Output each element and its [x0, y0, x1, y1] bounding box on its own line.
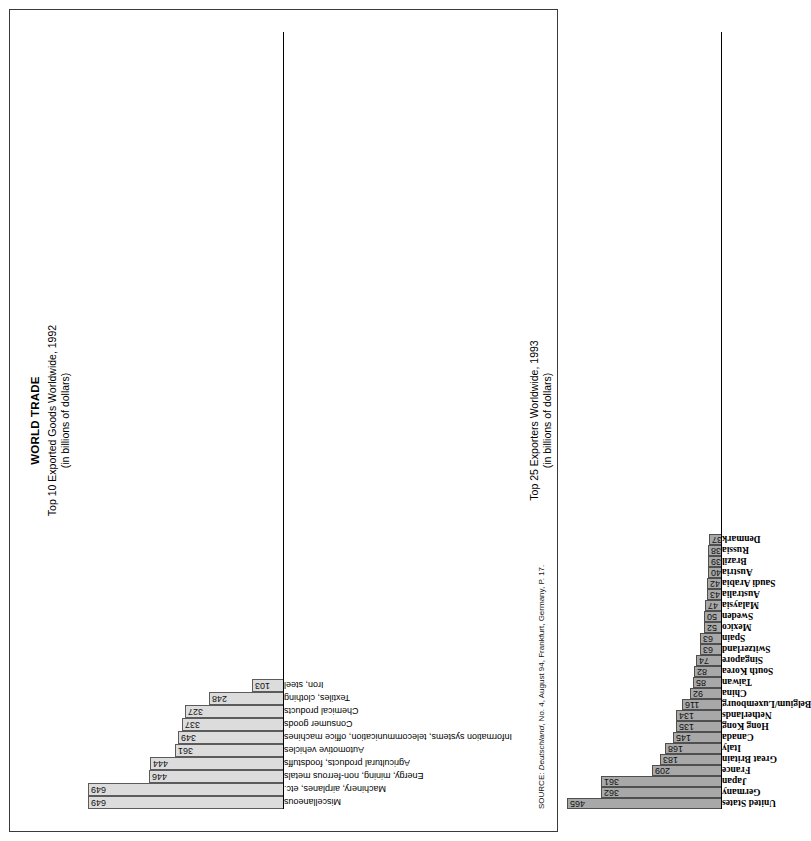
category-label-text: Belgium/Luxembourg: [722, 700, 811, 710]
bar: 52: [704, 622, 721, 633]
bar: 168: [665, 743, 721, 754]
category-label: Energy, mining, non-ferrous metals: [284, 770, 423, 783]
bar: 82: [694, 666, 721, 677]
chart1-plot-area: 649649446444361349337327248103: [74, 32, 284, 809]
bar: 183: [660, 754, 721, 765]
category-label-text: Iron, steel: [284, 681, 324, 691]
category-label-text: Spain: [722, 634, 745, 644]
category-label-text: Brazil: [722, 557, 747, 567]
source-publication: Deutschland: [537, 726, 546, 770]
bar-value-label: 50: [707, 612, 717, 621]
bar-value-label: 52: [707, 623, 717, 632]
category-label-text: Automotive vehicles: [284, 746, 364, 756]
category-label-text: Consumer goods: [284, 720, 353, 730]
bar: 465: [567, 798, 721, 809]
bar-value-label: 337: [185, 720, 200, 729]
category-label-text: Miscellaneous: [284, 798, 341, 808]
bar-column: 349: [178, 731, 283, 744]
bar-value-label: 361: [178, 746, 193, 755]
bar: 361: [601, 776, 721, 787]
bar-value-label: 209: [655, 766, 670, 775]
bar-column: 63: [700, 633, 721, 644]
bar-value-label: 649: [91, 798, 106, 807]
category-label-text: Denmark: [722, 535, 761, 545]
bar-value-label: 183: [663, 755, 678, 764]
bar-value-label: 38: [711, 546, 721, 555]
category-label-text: Canada: [722, 733, 754, 743]
category-label-text: Italy: [722, 744, 741, 754]
category-label: Canada: [722, 732, 754, 743]
category-label-text: Information systems, telecommunication, …: [284, 733, 512, 743]
category-label: United States: [722, 798, 776, 809]
bar-value-label: 362: [604, 788, 619, 797]
category-label: Machinery, airplanes, etc.: [284, 783, 386, 796]
bar-column: 116: [682, 699, 721, 710]
bar-value-label: 85: [696, 678, 706, 687]
chart1-title-line: Top 10 Exported Goods Worldwide, 1992: [46, 325, 58, 516]
bar-value-label: 145: [676, 733, 691, 742]
bar: 63: [700, 644, 721, 655]
category-label: Taiwan: [722, 677, 752, 688]
category-label: Netherlands: [722, 710, 772, 721]
category-label-text: Great Britain: [722, 755, 777, 765]
bar-value-label: 42: [710, 579, 720, 588]
bar: 446: [149, 770, 283, 783]
category-label: Hong Kong: [722, 721, 769, 732]
category-label-text: Machinery, airplanes, etc.: [284, 785, 386, 795]
bar-column: 446: [149, 770, 283, 783]
category-label: Mexico: [722, 622, 752, 633]
bar: 63: [700, 633, 721, 644]
category-label: Textiles, clothing: [284, 692, 350, 705]
category-label-text: Australia: [722, 590, 760, 600]
category-label: Consumer goods: [284, 718, 353, 731]
category-label: Australia: [722, 589, 760, 600]
chart1-units-line: (in billions of dollars): [59, 32, 72, 809]
bar-value-label: 248: [212, 694, 227, 703]
bar: 43: [707, 589, 721, 600]
bar: 103: [252, 679, 283, 692]
bar-value-label: 349: [181, 733, 196, 742]
category-label: Belgium/Luxembourg: [722, 699, 811, 710]
category-label: Automotive vehicles: [284, 744, 364, 757]
category-label-text: Agricultural products, foodstuffs: [284, 759, 410, 769]
bar: 39: [708, 556, 721, 567]
category-label: Saudi Arabia: [722, 578, 776, 589]
bar: 50: [704, 611, 721, 622]
bar: 327: [185, 705, 283, 718]
category-label: Switzerland: [722, 644, 771, 655]
bar-column: 465: [567, 798, 721, 809]
bar-column: 92: [690, 688, 721, 699]
category-label-text: Hong Kong: [722, 722, 769, 732]
chart2-plot-area: 4653623612091831681451351341169285827463…: [556, 32, 722, 809]
bar-value-label: 103: [255, 681, 270, 690]
bar-value-label: 40: [711, 568, 721, 577]
category-label: Singapore: [722, 655, 763, 666]
category-label: Chemical products: [284, 705, 359, 718]
category-label: France: [722, 765, 751, 776]
category-label: Denmark: [722, 534, 761, 545]
bar-column: 74: [696, 655, 721, 666]
bar-column: 43: [707, 589, 721, 600]
bar-value-label: 134: [679, 711, 694, 720]
bar-column: 82: [694, 666, 721, 677]
bar-column: 248: [209, 692, 283, 705]
bar-value-label: 92: [693, 689, 703, 698]
category-label-text: Taiwan: [722, 678, 752, 688]
bar-value-label: 82: [697, 667, 707, 676]
category-label-text: Germany: [722, 788, 761, 798]
category-label-text: Japan: [722, 777, 747, 787]
category-label: Malaysia: [722, 600, 759, 611]
bar: 135: [676, 721, 721, 732]
category-label: South Korea: [722, 666, 773, 677]
category-label: Japan: [722, 776, 747, 787]
chart-top10-exported-goods: Top 10 Exported Goods Worldwide, 1992 (i…: [46, 32, 512, 809]
bar-column: 361: [601, 776, 721, 787]
bar: 248: [209, 692, 283, 705]
bar-column: 39: [708, 556, 721, 567]
category-label: Information systems, telecommunication, …: [284, 731, 512, 744]
bar-column: 42: [707, 578, 721, 589]
bar-value-label: 63: [703, 634, 713, 643]
category-label-text: United States: [722, 799, 776, 809]
bar-column: 444: [150, 757, 283, 770]
bar: 337: [182, 718, 283, 731]
